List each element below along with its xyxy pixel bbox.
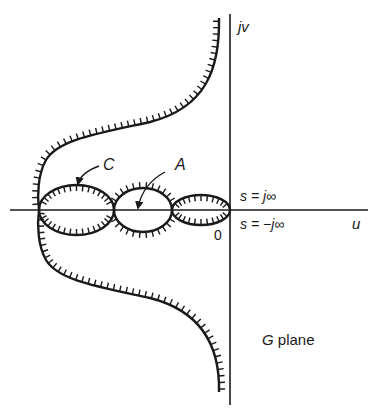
plane-var: G	[262, 331, 274, 348]
real-axis-label: u	[352, 215, 361, 232]
plane-label: G plane	[262, 331, 315, 348]
outer-contour-lower	[38, 210, 219, 392]
region-a-label: A	[174, 156, 186, 173]
origin-label: 0	[214, 227, 222, 243]
plane-suffix: plane	[274, 331, 315, 348]
region-c-label: C	[103, 156, 115, 173]
hatch-ticks	[32, 21, 227, 389]
outer-contour-upper	[38, 18, 219, 210]
nyquist-diagram: jv u 0 s = j∞ s = −j∞ C A G plane	[0, 0, 372, 412]
s-pos-inf-label: s = j∞	[240, 188, 276, 204]
imag-axis-label: jv	[236, 18, 250, 35]
c-pointer-arrow	[78, 166, 99, 184]
s-neg-inf-label: s = −j∞	[240, 216, 284, 232]
